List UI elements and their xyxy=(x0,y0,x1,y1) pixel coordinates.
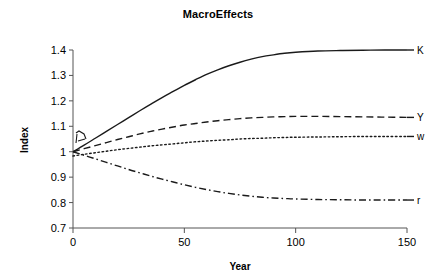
y-tick-label: 1.2 xyxy=(51,95,66,107)
x-tick-label: 0 xyxy=(70,236,76,248)
series-label-w: w xyxy=(416,131,425,142)
series-label-r: r xyxy=(417,195,421,206)
series-line-w xyxy=(73,136,407,156)
y-axis-title: Index xyxy=(19,127,30,154)
series-line-r xyxy=(73,152,407,200)
origin-transient-artifact-icon xyxy=(76,131,86,143)
axis-tick-marks xyxy=(69,50,407,233)
chart-container: MacroEffects 0.70.80.911.11.21.31.4 0501… xyxy=(0,0,436,280)
x-tick-label: 150 xyxy=(398,236,416,248)
x-axis-title: Year xyxy=(229,261,250,272)
x-axis-tick-labels: 050100150 xyxy=(70,236,416,248)
y-tick-label: 0.8 xyxy=(51,197,66,209)
series-label-Y: Y xyxy=(417,112,424,123)
x-tick-label: 100 xyxy=(286,236,304,248)
series-label-K: K xyxy=(417,45,424,56)
y-tick-label: 0.9 xyxy=(51,171,66,183)
plot-area: 0.70.80.911.11.21.31.4 050100150 KYwr Ye… xyxy=(0,0,436,280)
y-axis-tick-labels: 0.70.80.911.11.21.31.4 xyxy=(51,44,66,234)
x-tick-label: 50 xyxy=(178,236,190,248)
data-curves xyxy=(73,50,407,200)
series-labels: KYwr xyxy=(407,45,425,206)
y-tick-label: 1 xyxy=(60,146,66,158)
y-tick-label: 0.7 xyxy=(51,222,66,234)
y-tick-label: 1.4 xyxy=(51,44,66,56)
y-tick-label: 1.3 xyxy=(51,69,66,81)
series-line-K xyxy=(73,50,407,152)
y-tick-label: 1.1 xyxy=(51,120,66,132)
